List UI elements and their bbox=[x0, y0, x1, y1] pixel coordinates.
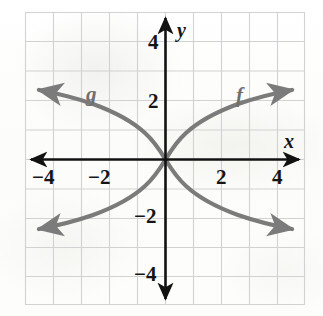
x-tick-label-4: 4 bbox=[272, 167, 283, 188]
x-tick-label-minus4: −4 bbox=[32, 167, 54, 188]
curve-label-g: g bbox=[86, 84, 97, 105]
x-axis-label: x bbox=[284, 131, 294, 151]
x-tick-label-minus2: −2 bbox=[88, 167, 110, 188]
coordinate-plane bbox=[0, 0, 323, 316]
y-tick-label-minus2: −2 bbox=[134, 206, 156, 227]
y-axis-label: y bbox=[177, 20, 186, 40]
axes bbox=[31, 18, 299, 299]
y-tick-label-2: 2 bbox=[148, 91, 159, 112]
y-tick-label-4: 4 bbox=[148, 32, 159, 53]
x-tick-label-2: 2 bbox=[216, 167, 227, 188]
curve-label-f: f bbox=[236, 85, 243, 106]
graph-figure: y x O −4 −2 2 4 4 2 −2 −4 f g bbox=[0, 0, 323, 316]
y-tick-label-minus4: −4 bbox=[134, 264, 156, 285]
